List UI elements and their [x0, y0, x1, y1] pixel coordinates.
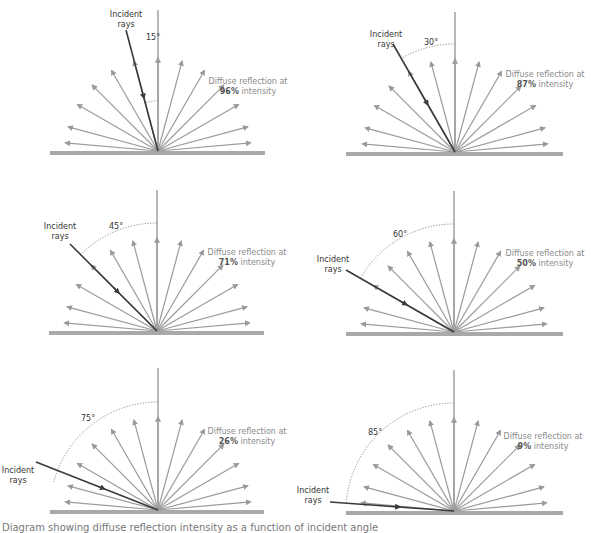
intensity-value: 26% [219, 437, 238, 446]
panel-15deg: Incidentrays15°Diffuse reflection at96% … [50, 10, 287, 153]
intensity-value: 9% [518, 442, 532, 451]
angle-arc [145, 101, 158, 103]
reflected-ray-arrow [454, 421, 478, 511]
incident-label: Incidentrays [44, 222, 76, 241]
diffuse-reflection-label: Diffuse reflection at9% intensity [504, 432, 583, 451]
angle-arc [54, 402, 158, 482]
reflected-ray-arrow [431, 62, 455, 152]
reflected-ray-arrow [158, 61, 182, 151]
intensity-value: 71% [219, 258, 238, 267]
panel-85deg: Incidentrays85°Diffuse reflection at9% i… [297, 370, 583, 513]
incident-label: Incidentrays [297, 486, 329, 505]
diffuse-reflection-label: Diffuse reflection at96% intensity [209, 77, 288, 96]
intensity-value: 96% [220, 87, 239, 96]
angle-arc [361, 224, 455, 278]
reflected-ray-arrow [157, 241, 181, 331]
incident-label: Incidentrays [317, 255, 349, 274]
diffuse-reflection-label: Diffuse reflection at87% intensity [506, 70, 585, 89]
diffuse-reflection-label: Diffuse reflection at50% intensity [506, 249, 585, 268]
incident-arrow-icon [424, 98, 427, 103]
angle-label: 30° [424, 38, 438, 47]
angle-label: 85° [368, 428, 382, 437]
reflected-ray-arrow [430, 421, 454, 511]
panel-60deg: Incidentrays60°Diffuse reflection at50% … [317, 191, 585, 334]
panel-45deg: Incidentrays45°Diffuse reflection at71% … [44, 190, 287, 333]
angle-label: 15° [146, 33, 160, 42]
intensity-value: 87% [517, 80, 536, 89]
incident-label: Incidentrays [2, 466, 34, 485]
incident-label: Incidentrays [110, 10, 142, 29]
figure-caption: Diagram showing diffuse reflection inten… [2, 522, 378, 533]
reflected-ray-arrow [133, 241, 157, 331]
reflected-ray-arrow [430, 242, 454, 332]
reflected-ray-arrow [454, 242, 478, 332]
angle-label: 75° [81, 414, 95, 423]
panel-75deg: Incidentrays75°Diffuse reflection at26% … [2, 368, 287, 512]
reflected-ray-arrow [158, 420, 182, 510]
incident-arrow-icon [114, 288, 118, 292]
incident-arrow-icon [142, 91, 144, 97]
intensity-value: 50% [517, 259, 536, 268]
reflected-ray-arrow [134, 420, 158, 510]
incident-arrow-icon [400, 301, 405, 304]
reflected-ray-arrow [455, 62, 479, 152]
angle-label: 60° [393, 230, 407, 239]
diffuse-reflection-label: Diffuse reflection at26% intensity [208, 427, 287, 446]
angle-label: 45° [109, 222, 123, 231]
panel-30deg: Incidentrays30°Diffuse reflection at87% … [346, 12, 584, 154]
diffuse-reflection-label: Diffuse reflection at71% intensity [208, 248, 287, 267]
incident-label: Incidentrays [370, 30, 402, 49]
panels-group: Incidentrays15°Diffuse reflection at96% … [2, 10, 585, 513]
